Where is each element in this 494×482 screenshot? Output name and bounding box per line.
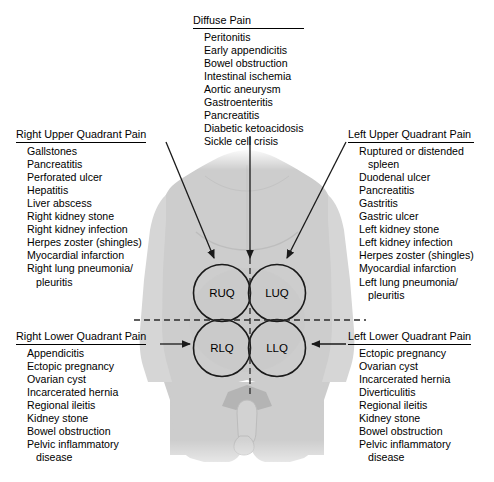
label-llq: LLQ — [266, 342, 288, 354]
label-ruq: RUQ — [209, 287, 235, 299]
right-upper-quadrant-list: Gallstones Pancreatitis Perforated ulcer… — [16, 145, 146, 289]
list-item: Aortic aneurysm — [204, 83, 304, 96]
list-item-text: Ruptured or distended — [359, 145, 464, 157]
diffuse-pain-block: Diffuse Pain Peritonitis Early appendici… — [193, 14, 304, 148]
list-item: Gastric ulcer — [359, 210, 474, 223]
list-item: Ovarian cyst — [27, 373, 146, 386]
left-lower-quadrant-heading: Left Lower Quadrant Pain — [348, 330, 471, 345]
right-upper-quadrant-heading: Right Upper Quadrant Pain — [16, 128, 146, 143]
list-item: Incarcerated hernia — [359, 373, 471, 386]
right-upper-quadrant-block: Right Upper Quadrant Pain Gallstones Pan… — [16, 128, 146, 289]
list-item: Herpes zoster (shingles) — [359, 249, 474, 262]
list-item: Regional ileitis — [27, 399, 146, 412]
list-item-text: Pelvic inflammatory — [359, 438, 451, 450]
diffuse-pain-heading: Diffuse Pain — [193, 14, 304, 29]
left-lower-quadrant-block: Left Lower Quadrant Pain Ectopic pregnan… — [348, 330, 471, 464]
list-item: Ectopic pregnancy — [359, 347, 471, 360]
list-item: Duodenal ulcer — [359, 171, 474, 184]
label-rlq: RLQ — [210, 342, 234, 354]
left-upper-quadrant-heading: Left Upper Quadrant Pain — [348, 128, 474, 143]
list-item: Ruptured or distended spleen — [359, 145, 474, 171]
list-item: Right kidney stone — [27, 210, 146, 223]
list-item-continuation: disease — [359, 451, 471, 464]
list-item: Kidney stone — [27, 412, 146, 425]
list-item: Sickle cell crisis — [204, 135, 304, 148]
list-item: Gallstones — [27, 145, 146, 158]
list-item: Appendicitis — [27, 347, 146, 360]
list-item-continuation: spleen — [359, 158, 474, 171]
list-item: Bowel obstruction — [204, 57, 304, 70]
left-lower-quadrant-list: Ectopic pregnancy Ovarian cyst Incarcera… — [348, 347, 471, 465]
right-lower-quadrant-block: Right Lower Quadrant Pain Appendicitis E… — [16, 330, 146, 464]
abdominal-quadrant-diagram: RUQ LUQ RLQ LLQ Diffuse Pain Peritonitis… — [0, 0, 494, 482]
list-item: Liver abscess — [27, 197, 146, 210]
list-item: Myocardial infarction — [27, 249, 146, 262]
list-item: Ectopic pregnancy — [27, 360, 146, 373]
diffuse-pain-list: Peritonitis Early appendicitis Bowel obs… — [193, 31, 304, 149]
list-item-continuation: pleuritis — [359, 289, 474, 302]
list-item: Diabetic ketoacidosis — [204, 122, 304, 135]
list-item: Early appendicitis — [204, 44, 304, 57]
list-item: Left kidney infection — [359, 236, 474, 249]
list-item: Pelvic inflammatory disease — [359, 438, 471, 464]
list-item-continuation: pleuritis — [27, 276, 146, 289]
list-item: Regional ileitis — [359, 399, 471, 412]
list-item: Pelvic inflammatory disease — [27, 438, 146, 464]
list-item: Peritonitis — [204, 31, 304, 44]
list-item-text: Right lung pneumonia/ — [27, 262, 133, 274]
left-upper-quadrant-block: Left Upper Quadrant Pain Ruptured or dis… — [348, 128, 474, 302]
list-item-text: Left lung pneumonia/ — [359, 276, 458, 288]
list-item: Diverticulitis — [359, 386, 471, 399]
list-item: Left kidney stone — [359, 223, 474, 236]
list-item: Bowel obstruction — [359, 425, 471, 438]
list-item: Hepatitis — [27, 184, 146, 197]
list-item: Pancreatitis — [27, 158, 146, 171]
list-item: Left lung pneumonia/ pleuritis — [359, 276, 474, 302]
list-item: Right kidney infection — [27, 223, 146, 236]
list-item: Incarcerated hernia — [27, 386, 146, 399]
list-item: Gastritis — [359, 197, 474, 210]
list-item: Pancreatitis — [204, 109, 304, 122]
list-item: Gastroenteritis — [204, 96, 304, 109]
left-upper-quadrant-list: Ruptured or distended spleen Duodenal ul… — [348, 145, 474, 302]
list-item: Myocardial infarction — [359, 262, 474, 275]
list-item: Intestinal ischemia — [204, 70, 304, 83]
list-item: Kidney stone — [359, 412, 471, 425]
right-lower-quadrant-heading: Right Lower Quadrant Pain — [16, 330, 146, 345]
right-lower-quadrant-list: Appendicitis Ectopic pregnancy Ovarian c… — [16, 347, 146, 465]
list-item: Herpes zoster (shingles) — [27, 236, 146, 249]
list-item-text: Pelvic inflammatory — [27, 438, 119, 450]
list-item: Bowel obstruction — [27, 425, 146, 438]
list-item: Ovarian cyst — [359, 360, 471, 373]
label-luq: LUQ — [265, 287, 289, 299]
list-item-continuation: disease — [27, 451, 146, 464]
list-item: Right lung pneumonia/ pleuritis — [27, 262, 146, 288]
list-item: Pancreatitis — [359, 184, 474, 197]
list-item: Perforated ulcer — [27, 171, 146, 184]
